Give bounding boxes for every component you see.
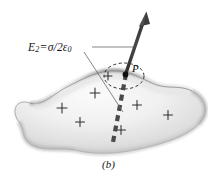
permittivity-subscript: 0 xyxy=(67,45,71,54)
figure-canvas xyxy=(0,0,217,177)
panel-caption: (b) xyxy=(0,158,217,170)
point-P-marker xyxy=(123,72,129,78)
equals-sign: = xyxy=(39,41,48,53)
point-P-label: P xyxy=(132,62,139,74)
permittivity-term: 2ε xyxy=(57,41,67,53)
field-magnitude-label: E2=σ/2ε0 xyxy=(28,41,72,54)
figure-panel-b: E2=σ/2ε0 P (b) xyxy=(0,0,217,177)
charged-conductor-blob xyxy=(15,71,205,154)
